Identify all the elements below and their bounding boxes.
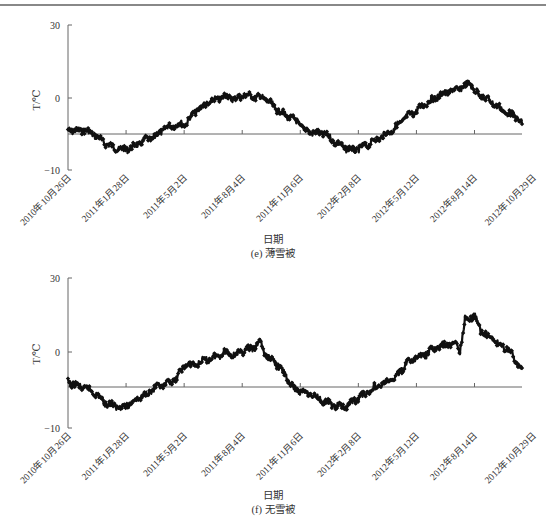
x-tick-label: 2012年2月8日 bbox=[315, 172, 364, 221]
x-tick-label: 2012年5月12日 bbox=[369, 430, 422, 483]
x-tick-label: 2011年11月6日 bbox=[254, 172, 306, 224]
y-tick-label: 30 bbox=[50, 20, 60, 31]
x-tick-label: 2012年2月8日 bbox=[315, 430, 364, 479]
y-axis-title: T/℃ bbox=[31, 89, 42, 110]
x-tick-label: 2012年8月14日 bbox=[427, 172, 480, 225]
temperature-charts: 300−10T/℃2010年10月26日2011年1月28日2011年5月2日2… bbox=[0, 0, 546, 522]
chart-no-snow: 300−10T/℃2010年10月26日2011年1月28日2011年5月2日2… bbox=[18, 273, 538, 517]
x-tick-label: 2011年8月4日 bbox=[199, 430, 248, 479]
temperature-series-line bbox=[68, 314, 522, 411]
temperature-series-markers bbox=[66, 314, 524, 411]
y-tick-label: −10 bbox=[44, 165, 60, 176]
x-tick-label: 2011年8月4日 bbox=[199, 172, 248, 221]
figure-caption: (f) 无雪被 bbox=[251, 503, 295, 516]
x-tick-label: 2010年10月26日 bbox=[18, 172, 74, 228]
x-tick-label: 2012年5月12日 bbox=[369, 172, 422, 225]
y-tick-label: −10 bbox=[44, 423, 60, 434]
x-tick-label: 2012年10月29日 bbox=[482, 430, 538, 486]
y-tick-label: 0 bbox=[55, 347, 60, 358]
x-tick-label: 2011年5月2日 bbox=[141, 430, 190, 479]
y-tick-label: 0 bbox=[55, 93, 60, 104]
x-tick-label: 2012年8月14日 bbox=[427, 430, 480, 483]
x-tick-label: 2012年10月29日 bbox=[482, 172, 538, 228]
y-axis-title: T/℃ bbox=[31, 343, 42, 364]
x-tick-label: 2011年1月28日 bbox=[79, 172, 131, 224]
diamond-marker bbox=[462, 322, 466, 326]
x-tick-label: 2010年10月26日 bbox=[18, 430, 74, 486]
figure-caption: (e) 薄雪被 bbox=[251, 247, 296, 260]
x-axis-title: 日期 bbox=[263, 490, 283, 501]
x-axis-title: 日期 bbox=[263, 234, 283, 245]
y-tick-label: 30 bbox=[50, 273, 60, 284]
x-tick-label: 2011年5月2日 bbox=[141, 172, 190, 221]
chart-thin-snow: 300−10T/℃2010年10月26日2011年1月28日2011年5月2日2… bbox=[18, 20, 538, 261]
x-tick-label: 2011年11月6日 bbox=[254, 430, 306, 482]
temperature-series-markers bbox=[66, 81, 524, 154]
x-tick-label: 2011年1月28日 bbox=[79, 430, 131, 482]
